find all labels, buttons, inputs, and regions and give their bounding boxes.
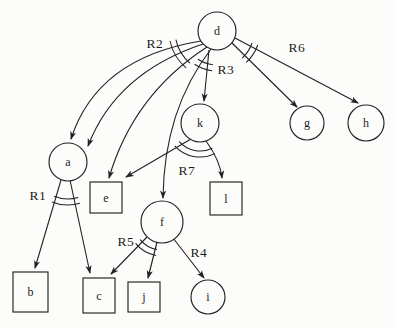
relation-label-R6: R6 xyxy=(289,40,306,55)
node-label-f: f xyxy=(160,215,164,229)
relation-label-R2: R2 xyxy=(147,36,164,51)
relation-arc-outer-R1 xyxy=(52,202,80,205)
node-label-h: h xyxy=(363,116,369,130)
node-label-c: c xyxy=(96,289,101,303)
edge-a-c xyxy=(70,180,90,273)
node-label-a: a xyxy=(65,155,71,169)
edge-d-g xyxy=(232,43,297,107)
relation-arc-outer-R6 xyxy=(246,45,257,62)
node-label-k: k xyxy=(197,116,203,130)
node-label-b: b xyxy=(28,285,34,299)
relation-arc-inner-R1 xyxy=(54,196,78,199)
node-label-d: d xyxy=(214,24,220,38)
relation-label-R5: R5 xyxy=(118,234,135,249)
relation-label-R4: R4 xyxy=(191,245,208,260)
relation-arc-outer-R7 xyxy=(175,146,215,157)
relation-label-R7: R7 xyxy=(179,163,196,178)
hypergraph-diagram: dkghafielbcjR2R3R6R7R1R5R4 xyxy=(0,0,395,328)
node-label-e: e xyxy=(103,191,108,205)
relation-label-R1: R1 xyxy=(30,188,47,203)
edge-k-l xyxy=(206,141,222,178)
node-label-g: g xyxy=(304,116,310,130)
relation-arc-inner-R6 xyxy=(242,43,252,58)
node-label-j: j xyxy=(141,290,145,304)
relation-label-R3: R3 xyxy=(218,62,235,77)
diagram-canvas: dkghafielbcjR2R3R6R7R1R5R4 xyxy=(0,0,395,328)
